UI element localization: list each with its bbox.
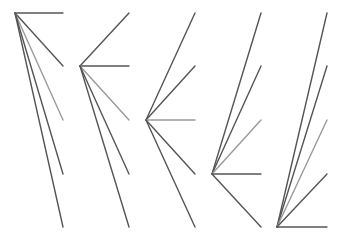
fan-line	[212, 120, 261, 174]
diagram-svg	[0, 0, 342, 239]
fan-line	[212, 66, 261, 174]
fan-line	[80, 66, 129, 227]
fan-line	[80, 66, 129, 120]
fan-line	[277, 120, 327, 227]
fan-line	[146, 66, 195, 120]
fan-group-5	[277, 13, 327, 227]
fan-line	[80, 66, 129, 174]
fan-group-1	[15, 13, 63, 227]
fan-group-3	[146, 13, 195, 227]
fan-group-4	[212, 13, 261, 227]
fan-line	[212, 174, 261, 227]
fan-line	[15, 13, 63, 227]
fan-line	[277, 66, 327, 227]
fan-line	[15, 13, 63, 174]
fan-lines-diagram	[0, 0, 342, 239]
fan-line	[146, 120, 195, 227]
fan-line	[146, 120, 195, 174]
fan-group-2	[80, 13, 129, 227]
fan-line	[212, 13, 261, 174]
fan-line	[277, 13, 327, 227]
fan-line	[15, 13, 63, 120]
fan-line	[80, 13, 129, 66]
fan-line	[146, 13, 195, 120]
